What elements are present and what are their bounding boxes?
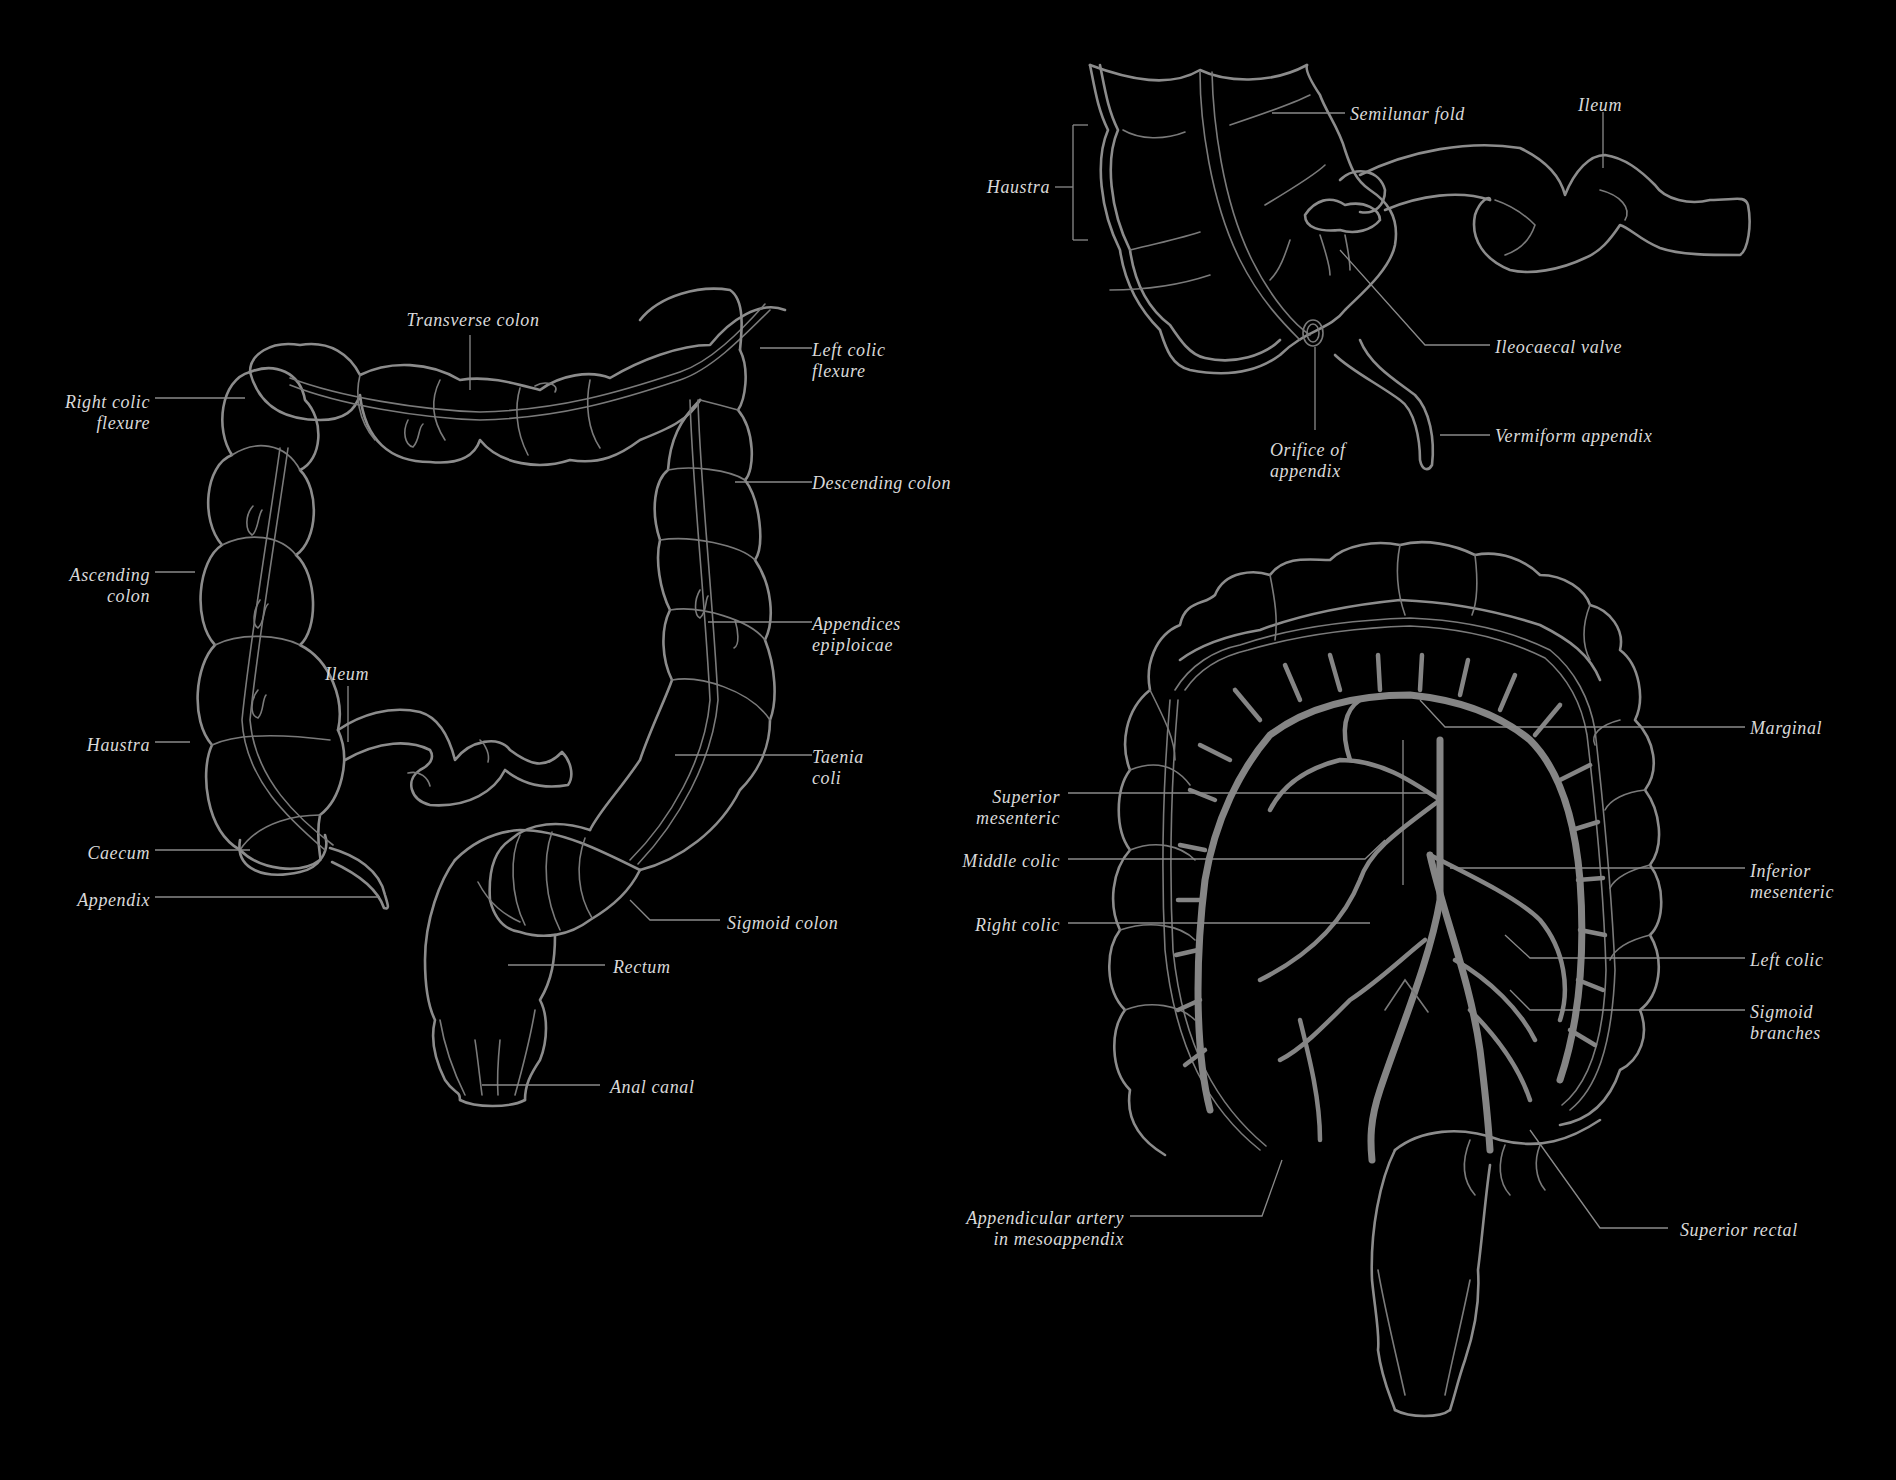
label-right-colic: Right colic <box>900 915 1060 936</box>
label-superior-mesenteric: Superior mesenteric <box>900 787 1060 829</box>
label-ileocaecal-valve: Ileocaecal valve <box>1495 337 1622 358</box>
label-ascending-colon: Ascending colon <box>40 565 150 607</box>
label-right-colic-flexure: Right colic flexure <box>40 392 150 434</box>
descending-colon-shape <box>590 289 775 870</box>
label-semilunar-fold: Semilunar fold <box>1350 104 1465 125</box>
large-intestine-diagram <box>155 289 812 1106</box>
sigmoid-colon-shape <box>455 824 640 936</box>
label-orifice-of-appendix: Orifice of appendix <box>1270 440 1346 482</box>
label-taenia-coli: Taenia coli <box>812 747 864 789</box>
ascending-colon-shape <box>198 368 344 874</box>
label-sigmoid-branches: Sigmoid branches <box>1750 1002 1821 1044</box>
label-anal-canal: Anal canal <box>610 1077 695 1098</box>
label-appendix: Appendix <box>40 890 150 911</box>
label-left-colic: Left colic <box>1750 950 1823 971</box>
anatomy-illustrations <box>0 0 1896 1480</box>
label-transverse-colon: Transverse colon <box>393 310 553 331</box>
label-sigmoid-colon: Sigmoid colon <box>727 913 838 934</box>
label-vermiform-appendix: Vermiform appendix <box>1495 426 1652 447</box>
appendix-shape <box>330 848 388 908</box>
label-appendicular-artery: Appendicular artery in mesoappendix <box>900 1208 1124 1250</box>
leader-lines-2 <box>1272 112 1603 435</box>
arteries <box>1176 655 1605 1160</box>
label-middle-colic: Middle colic <box>900 851 1060 872</box>
haustra-bracket <box>1055 125 1088 240</box>
leader-lines-1 <box>155 335 812 1085</box>
label-ileum-2: Ileum <box>1578 95 1622 116</box>
label-haustra-2: Haustra <box>940 177 1050 198</box>
label-superior-rectal: Superior rectal <box>1680 1220 1798 1241</box>
label-marginal: Marginal <box>1750 718 1822 739</box>
arterial-supply-diagram <box>1068 542 1745 1416</box>
label-descending-colon: Descending colon <box>812 473 951 494</box>
ileum-shape-1 <box>338 710 571 806</box>
label-ileum-1: Ileum <box>325 664 369 685</box>
label-left-colic-flexure: Left colic flexure <box>812 340 885 382</box>
label-haustra-1: Haustra <box>40 735 150 756</box>
label-caecum: Caecum <box>40 843 150 864</box>
caecum-detail-diagram <box>1055 65 1750 469</box>
label-rectum: Rectum <box>613 957 671 978</box>
label-appendices-epiploicae: Appendices epiploicae <box>812 614 901 656</box>
label-inferior-mesenteric: Inferior mesenteric <box>1750 861 1834 903</box>
